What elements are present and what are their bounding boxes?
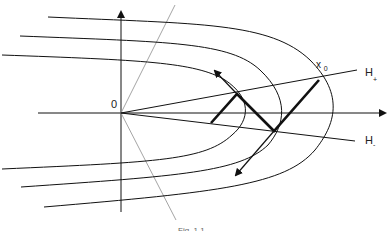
zigzag-path xyxy=(211,80,319,131)
figure-caption: Fig. 1.1 xyxy=(178,226,205,231)
curve-middle xyxy=(20,36,282,187)
h-plus-ray xyxy=(121,70,357,113)
x0-label: x 0 xyxy=(316,59,328,72)
h-minus-sub: - xyxy=(373,141,375,148)
arrow-upper-left xyxy=(215,71,237,94)
diagram-svg xyxy=(0,0,387,231)
h-plus-main: H xyxy=(365,66,373,78)
h-minus-ray xyxy=(121,113,355,141)
origin-label: 0 xyxy=(111,98,117,110)
h-plus-sub: + xyxy=(373,76,377,83)
figure-canvas: 0 x 0 H+ H- Fig. 1.1 xyxy=(0,0,387,231)
x0-main: x xyxy=(316,59,321,70)
h-minus-main: H xyxy=(365,134,373,146)
x0-sub: 0 xyxy=(324,65,328,72)
h-plus-label: H+ xyxy=(365,66,377,78)
arrow-lower-left xyxy=(236,131,274,175)
h-minus-label: H- xyxy=(365,134,375,146)
